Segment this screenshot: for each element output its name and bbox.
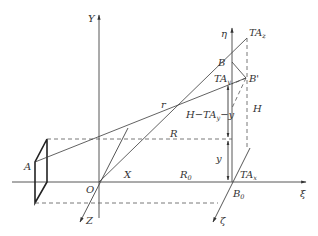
zeta-axis-label: ζ	[220, 215, 226, 226]
ta-x-label: TAx	[240, 169, 257, 182]
xi-axis-label: ξ	[300, 188, 306, 199]
x-axis-label: X	[123, 169, 132, 180]
point-b-prime-label: B'	[248, 73, 259, 84]
z-axis-label: Z	[85, 215, 94, 226]
point-a-label: A	[23, 161, 31, 172]
big-r-label: R	[169, 128, 178, 139]
r-label: r	[161, 99, 167, 110]
h-minus-label: H−TAy−y	[185, 109, 235, 122]
r0-label: R0	[179, 169, 192, 182]
ta-y-label: TAy	[214, 73, 231, 86]
coordinate-diagram: Y ξ Z O X η ζ A r B B' TAz TAy H−TAy−y H…	[0, 0, 318, 236]
segment-b-bprime	[232, 62, 246, 78]
y-axis-label: Y	[88, 13, 96, 24]
ta-z-label: TAz	[249, 27, 266, 40]
z-axis	[80, 128, 128, 222]
eta-axis-label: η	[221, 28, 227, 39]
plane-a	[35, 139, 47, 203]
line-r	[35, 78, 246, 162]
y-dim-label: y	[215, 153, 222, 164]
point-b-label: B	[217, 57, 225, 68]
origin-label: O	[86, 184, 94, 195]
b0-label: B0	[232, 188, 245, 201]
h-label: H	[252, 103, 262, 114]
